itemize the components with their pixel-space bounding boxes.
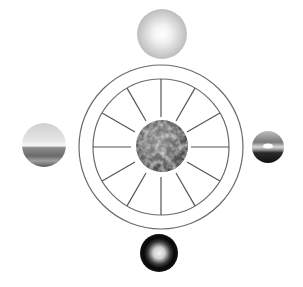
wheel-spoke bbox=[176, 173, 195, 206]
wheel-spoke bbox=[102, 113, 135, 132]
earth-wheel-diagram bbox=[0, 0, 303, 287]
night-glow-icon bbox=[140, 234, 178, 272]
wheel-spoke bbox=[102, 162, 135, 181]
earth-texture bbox=[136, 120, 188, 172]
noon-sun-icon bbox=[137, 9, 187, 59]
wheel-spoke bbox=[187, 162, 220, 181]
wheel-spoke bbox=[127, 88, 146, 121]
wheel-spoke bbox=[187, 113, 220, 132]
wheel-spoke bbox=[127, 173, 146, 206]
seascape-horizon-icon bbox=[22, 123, 66, 167]
earth-sphere bbox=[136, 120, 188, 172]
sunset-sun-glint bbox=[263, 144, 273, 149]
wheel-spoke bbox=[176, 88, 195, 121]
